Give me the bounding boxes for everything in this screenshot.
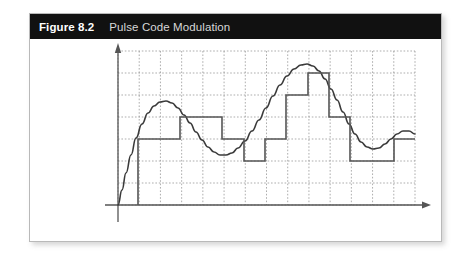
- pcm-chart: [30, 39, 441, 241]
- figure-number-label: Figure 8.2: [39, 21, 94, 33]
- grid-vertical-lines: [118, 51, 415, 205]
- y-axis-arrow-icon: [115, 43, 121, 53]
- x-axis-arrow-icon: [422, 202, 431, 209]
- grid-horizontal-lines: [118, 51, 415, 205]
- figure-header: Figure 8.2 Pulse Code Modulation: [30, 14, 441, 39]
- figure-card: Figure 8.2 Pulse Code Modulation: [29, 13, 442, 242]
- figure-title: Pulse Code Modulation: [109, 21, 230, 33]
- figure-body: [30, 39, 441, 241]
